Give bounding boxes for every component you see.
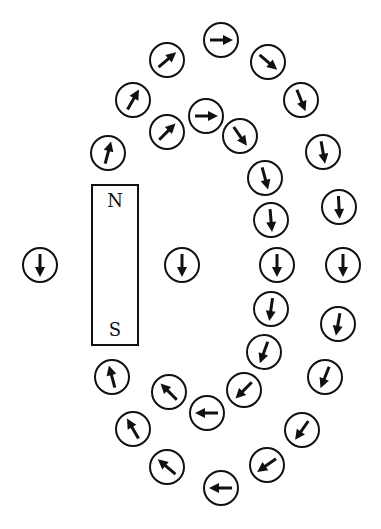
compass-outer-13: [116, 412, 150, 446]
compass-outer-11: [204, 471, 238, 505]
compass-outer-12: [150, 450, 184, 484]
magnetic-field-diagram: N S: [0, 0, 381, 529]
compass-left: [23, 248, 57, 282]
compass-inner-10: [190, 396, 224, 430]
compass-outer-6: [326, 248, 360, 282]
compass-outer-4: [306, 135, 340, 169]
compass-outer-7: [321, 307, 355, 341]
compass-outer-14: [95, 360, 129, 394]
compass-center: [165, 248, 199, 282]
compass-outer-3: [284, 83, 318, 117]
compass-outer-15: [91, 136, 125, 170]
compass-outer-16: [116, 83, 150, 117]
compass-layer: [0, 0, 381, 529]
compass-inner-11: [152, 375, 186, 409]
compass-inner-4: [248, 161, 282, 195]
compass-inner-2: [150, 115, 184, 149]
compass-inner-8: [247, 335, 281, 369]
compass-inner-7: [254, 292, 288, 326]
compass-outer-10: [250, 448, 284, 482]
compass-outer-2: [251, 45, 285, 79]
compass-outer-8: [308, 360, 342, 394]
compass-outer-1: [204, 23, 238, 57]
compass-inner-3: [223, 119, 257, 153]
compass-outer-9: [285, 413, 319, 447]
compass-inner-9: [227, 373, 261, 407]
compass-outer-5: [322, 190, 356, 224]
compass-inner-1: [189, 99, 223, 133]
compass-inner-6: [260, 248, 294, 282]
compass-inner-5: [254, 203, 288, 237]
compass-outer-17: [150, 43, 184, 77]
